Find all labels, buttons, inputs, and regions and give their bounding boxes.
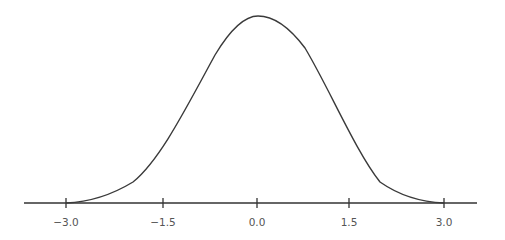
- x-tick-label: 3.0: [436, 216, 453, 228]
- x-tick-label: −1.5: [150, 216, 176, 228]
- bell-curve-chart: −3.0−1.50.01.53.0: [0, 0, 505, 240]
- x-tick-label: 0.0: [249, 216, 266, 228]
- density-curve: [66, 16, 444, 203]
- x-tick-label: −3.0: [53, 216, 79, 228]
- x-tick-label: 1.5: [341, 216, 358, 228]
